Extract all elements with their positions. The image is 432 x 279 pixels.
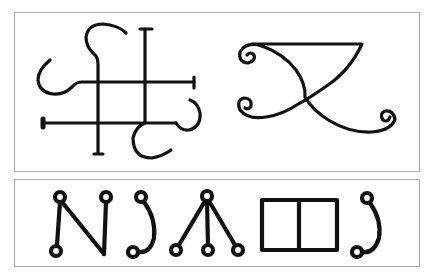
trident-glyph — [171, 191, 243, 255]
glyph-row — [51, 191, 380, 257]
double-box-glyph — [262, 200, 337, 250]
n-glyph — [51, 192, 111, 256]
sigil-artwork — [0, 0, 432, 279]
crossed-bars-sigil — [38, 24, 200, 158]
spiral-triangle-sigil — [239, 44, 395, 132]
j-glyph-1 — [128, 192, 154, 257]
j-glyph-2 — [352, 193, 380, 257]
